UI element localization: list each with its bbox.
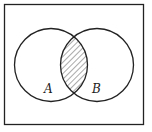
venn-diagram: A B [0,0,152,132]
set-a-label: A [43,82,53,96]
set-b-label: B [91,82,101,96]
